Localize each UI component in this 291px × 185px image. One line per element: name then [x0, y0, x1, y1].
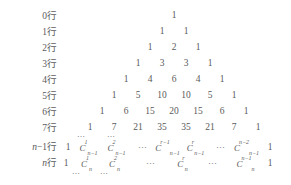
binomial-coefficient: Crn — [171, 160, 195, 169]
triangle-row-1: 11 — [57, 25, 291, 39]
binomial-superscript: n−1 — [241, 155, 251, 161]
binomial-superscript: 2 — [114, 155, 117, 161]
binomial-coefficient: Cr−1n−1 — [153, 144, 183, 153]
triangle-cell-ellipsis: ⋯ — [129, 160, 171, 169]
binomial-subscript: n — [185, 166, 188, 172]
triangle-cell: 1 — [102, 91, 126, 101]
binomial-superscript: 2 — [112, 139, 115, 145]
triangle-cell: 1 — [222, 91, 246, 101]
triangle-row-6: 1615201561 — [57, 105, 291, 119]
binomial-coefficient: C2n — [101, 160, 129, 169]
triangle-row-n-minus-1: 1C1n−1C2n−1⋯Cr−1n−1Crn−1⋯Cn−2n−11 — [57, 140, 291, 156]
binomial-coefficient: Crn−1 — [183, 144, 209, 153]
triangle-cell: 15 — [138, 107, 162, 117]
row-label-7: 7行 — [0, 124, 57, 134]
triangle-cell: 3 — [150, 59, 174, 69]
triangle-row-0: 1 — [57, 9, 291, 23]
triangle-cell: 10 — [150, 91, 174, 101]
row-label-0: 0行 — [0, 12, 57, 22]
triangle-cell: 6 — [162, 75, 186, 85]
binomial-coefficient: C2n−1 — [103, 144, 131, 153]
triangle-cell-one: 1 — [59, 159, 73, 169]
binomial-superscript: 1 — [86, 155, 89, 161]
row-label-n-minus-1-suffix: −1行 — [37, 142, 57, 152]
triangle-cell: 1 — [198, 59, 222, 69]
row-label-4: 4行 — [0, 76, 57, 86]
triangle-cell: 1 — [174, 27, 198, 37]
triangle-cell: 1 — [126, 59, 150, 69]
ellipsis-below-left: ⋯ — [72, 170, 81, 178]
binomial-coefficient: C1n−1 — [75, 144, 103, 153]
triangle-cell: 10 — [174, 91, 198, 101]
triangle-cell-ellipsis: ⋯ — [131, 144, 153, 153]
ellipsis-below-right: ⋯ — [100, 170, 109, 178]
row-label-column: 0行 1行 2行 3行 4行 5行 6行 7行 n−1行 n行 — [0, 0, 57, 185]
row-label-6: 6行 — [0, 108, 57, 118]
binomial-superscript: r — [182, 155, 184, 161]
triangle-cell: 20 — [162, 107, 186, 117]
triangle-cell: 4 — [138, 75, 162, 85]
binomial-subscript: n — [89, 166, 92, 172]
binomial-superscript: n−2 — [239, 139, 249, 145]
triangle-cell: 21 — [126, 123, 150, 133]
triangle-cell: 1 — [138, 43, 162, 53]
triangle-cell-ellipsis: ⋯ — [195, 160, 229, 169]
triangle-cell: 7 — [222, 123, 246, 133]
triangle-row-2: 121 — [57, 41, 291, 55]
triangle-cell: 15 — [186, 107, 210, 117]
triangle-cell: 1 — [162, 11, 186, 21]
row-label-n-minus-1: n−1行 — [0, 143, 57, 153]
triangle-cell: 21 — [198, 123, 222, 133]
binomial-coefficient: C1n — [73, 160, 101, 169]
triangle-cell: 5 — [126, 91, 150, 101]
row-label-n-suffix: 行 — [47, 158, 57, 168]
row-label-n: n行 — [0, 159, 57, 169]
triangle-row-n: 1C1nC2n⋯Crn⋯Cn−1n1 — [57, 156, 291, 172]
triangle-row-7: 172135352171 — [57, 121, 291, 135]
triangle-cell-ellipsis: ⋯ — [209, 144, 231, 153]
triangle-cell: 1 — [186, 43, 210, 53]
triangle-cell: 35 — [150, 123, 174, 133]
triangle-cell-one: 1 — [263, 159, 277, 169]
triangle-row-5: 15101051 — [57, 89, 291, 103]
triangle-cell: 6 — [210, 107, 234, 117]
binomial-superscript: 1 — [84, 139, 87, 145]
triangle-cell: 1 — [90, 107, 114, 117]
triangle-cell: 5 — [198, 91, 222, 101]
row-label-3: 3行 — [0, 60, 57, 70]
binomial-superscript: r−1 — [160, 139, 169, 145]
triangle-cell: 3 — [174, 59, 198, 69]
row-label-2: 2行 — [0, 44, 57, 54]
binomial-subscript: n — [117, 166, 120, 172]
binomial-coefficient: Cn−2n−1 — [231, 144, 263, 153]
triangle-cell: 4 — [186, 75, 210, 85]
binomial-subscript: n — [252, 166, 255, 172]
triangle-cell: 6 — [114, 107, 138, 117]
binomial-superscript: r — [192, 139, 194, 145]
triangle-cell: 1 — [210, 75, 234, 85]
triangle-cell: 1 — [114, 75, 138, 85]
triangle-row-4: 14641 — [57, 73, 291, 87]
row-label-5: 5行 — [0, 92, 57, 102]
triangle-cell: 1 — [246, 123, 270, 133]
triangle-cell: 1 — [234, 107, 258, 117]
triangle-cell-one: 1 — [263, 143, 277, 153]
binomial-coefficient: Cn−1n — [229, 160, 263, 169]
triangle-cell: 2 — [162, 43, 186, 53]
triangle-cell: 35 — [174, 123, 198, 133]
triangle-cell: 1 — [150, 27, 174, 37]
triangle-row-3: 1331 — [57, 57, 291, 71]
pascal-triangle-figure: 0行 1行 2行 3行 4行 5行 6行 7行 n−1行 n行 1 11 121… — [0, 0, 291, 185]
row-label-1: 1行 — [0, 28, 57, 38]
triangle-cell-one: 1 — [61, 143, 75, 153]
